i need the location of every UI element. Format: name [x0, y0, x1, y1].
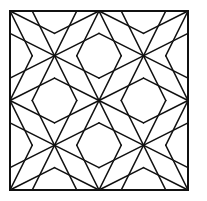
pattern-line [99, 101, 144, 123]
pattern-line [55, 168, 100, 190]
pattern-line [99, 56, 121, 101]
pattern-line [166, 56, 188, 101]
pattern-line [77, 11, 99, 56]
pattern-line [144, 78, 189, 100]
pattern-line [99, 11, 144, 33]
pattern-line [55, 101, 100, 123]
pattern-line [144, 101, 189, 123]
pattern-line [77, 145, 99, 190]
pattern-line [55, 78, 100, 100]
geometric-pattern [0, 0, 207, 201]
pattern-line [166, 145, 188, 190]
pattern-line [10, 101, 32, 146]
pattern-line [77, 101, 99, 146]
pattern-line [10, 11, 55, 33]
pattern-line [10, 78, 55, 100]
pattern-line [99, 168, 144, 190]
pattern-line [10, 168, 55, 190]
pattern-line [99, 145, 121, 190]
pattern-line [144, 168, 189, 190]
pattern-line [10, 56, 32, 101]
pattern-line [99, 11, 121, 56]
pattern-line [77, 56, 99, 101]
pattern-line [10, 145, 32, 190]
pattern-line [144, 11, 189, 33]
pattern-line [55, 11, 100, 33]
pattern-line [10, 11, 32, 56]
pattern-line [166, 11, 188, 56]
pattern-lines [10, 11, 188, 190]
pattern-line [99, 101, 121, 146]
pattern-line [99, 78, 144, 100]
pattern-line [166, 101, 188, 146]
pattern-line [10, 101, 55, 123]
